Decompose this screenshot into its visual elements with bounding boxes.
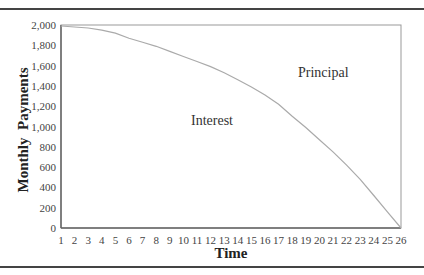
x-tick-label: 2	[72, 234, 78, 246]
x-tick-label: 16	[260, 234, 272, 246]
y-tick-label: 1,200	[31, 100, 56, 112]
y-axis-title: Monthly Payments	[15, 67, 31, 192]
y-tick-label: 1,600	[31, 60, 56, 72]
y-tick-label: 600	[40, 161, 57, 173]
x-tick-label: 22	[341, 234, 352, 246]
x-tick-label: 10	[178, 234, 190, 246]
principal-label: Principal	[298, 65, 349, 80]
x-tick-label: 17	[273, 234, 285, 246]
y-tick-label: 0	[51, 222, 57, 234]
x-tick-label: 26	[396, 234, 408, 246]
y-tick-label: 200	[40, 202, 57, 214]
x-tick-label: 1	[58, 234, 64, 246]
x-tick-label: 15	[246, 234, 258, 246]
x-tick-label: 21	[328, 234, 339, 246]
payment-chart: 02004006008001,0001,2001,4001,6001,8002,…	[0, 0, 424, 275]
interest-label: Interest	[191, 113, 233, 128]
y-tick-label: 1,400	[31, 80, 56, 92]
x-axis-title: Time	[214, 245, 247, 261]
x-tick-label: 23	[355, 234, 367, 246]
x-tick-label: 3	[85, 234, 91, 246]
x-tick-label: 18	[287, 234, 299, 246]
y-tick-label: 2,000	[31, 19, 56, 31]
x-tick-label: 20	[314, 234, 326, 246]
x-tick-label: 11	[192, 234, 203, 246]
y-tick-label: 1,800	[31, 39, 56, 51]
x-tick-label: 25	[382, 234, 394, 246]
x-tick-label: 4	[99, 234, 105, 246]
x-tick-label: 7	[140, 234, 146, 246]
x-tick-label: 9	[167, 234, 173, 246]
y-tick-label: 800	[40, 141, 57, 153]
x-tick-label: 24	[368, 234, 380, 246]
y-axis-ticks: 02004006008001,0001,2001,4001,6001,8002,…	[31, 19, 56, 234]
x-tick-label: 6	[126, 234, 132, 246]
x-tick-label: 5	[113, 234, 119, 246]
x-tick-label: 8	[153, 234, 159, 246]
y-tick-label: 1,000	[31, 121, 56, 133]
x-tick-label: 19	[300, 234, 312, 246]
y-tick-label: 400	[40, 181, 57, 193]
